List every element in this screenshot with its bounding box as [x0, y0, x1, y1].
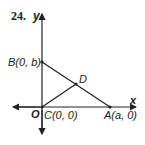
label-a: A(a, 0): [104, 110, 137, 121]
x-axis-label: x: [130, 95, 136, 106]
label-c: C(0, 0): [44, 110, 78, 121]
origin-label: O: [31, 109, 40, 120]
label-b: B(0, b): [8, 57, 41, 68]
segment-cd: [42, 84, 76, 107]
coordinate-diagram: 24. y x B(0, b) D O C(0, 0) A(a, 0): [0, 0, 145, 145]
y-axis-label: y: [33, 10, 40, 22]
problem-number: 24.: [11, 10, 26, 22]
label-d: D: [79, 74, 87, 85]
point-d: [74, 82, 77, 85]
